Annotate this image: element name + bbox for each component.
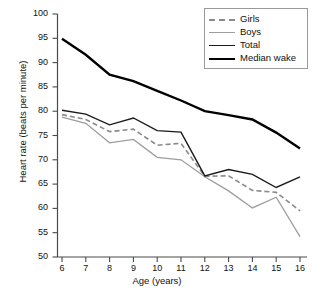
y-tick-label: 50 xyxy=(20,251,48,261)
x-tick-label: 12 xyxy=(195,263,215,273)
legend-item-girls: Girls xyxy=(209,12,303,25)
y-tick-label: 100 xyxy=(20,8,48,18)
legend-item-boys: Boys xyxy=(209,25,303,38)
y-tick-marks xyxy=(53,14,58,257)
legend-label: Total xyxy=(240,39,260,50)
x-tick-label: 11 xyxy=(171,263,191,273)
y-axis-title: Heart rate (beats per minute) xyxy=(17,42,28,202)
x-tick-label: 10 xyxy=(147,263,167,273)
series-line-boys xyxy=(62,117,300,237)
x-tick-label: 8 xyxy=(100,263,120,273)
legend-item-total: Total xyxy=(209,38,303,51)
legend-label: Median wake xyxy=(240,52,296,63)
legend-swatch-icon xyxy=(209,53,235,63)
legend-label: Girls xyxy=(240,13,260,24)
x-tick-label: 14 xyxy=(242,263,262,273)
legend-label: Boys xyxy=(240,26,261,37)
x-tick-marks xyxy=(62,257,300,262)
x-tick-label: 13 xyxy=(219,263,239,273)
legend-swatch-icon xyxy=(209,14,235,24)
legend-item-median-wake: Median wake xyxy=(209,51,303,64)
x-tick-label: 6 xyxy=(52,263,72,273)
heart-rate-line-chart: 10095908580757065605550 6789101112131415… xyxy=(0,0,314,292)
x-tick-label: 9 xyxy=(123,263,143,273)
x-tick-label: 16 xyxy=(290,263,310,273)
chart-legend: GirlsBoysTotalMedian wake xyxy=(204,8,308,69)
y-tick-label: 60 xyxy=(20,202,48,212)
series-line-girls xyxy=(62,115,300,211)
series-line-total xyxy=(62,110,300,187)
x-tick-label: 15 xyxy=(266,263,286,273)
legend-swatch-icon xyxy=(209,27,235,37)
legend-swatch-icon xyxy=(209,40,235,50)
y-tick-label: 55 xyxy=(20,227,48,237)
x-axis-title: Age (years) xyxy=(0,275,314,286)
x-tick-label: 7 xyxy=(76,263,96,273)
